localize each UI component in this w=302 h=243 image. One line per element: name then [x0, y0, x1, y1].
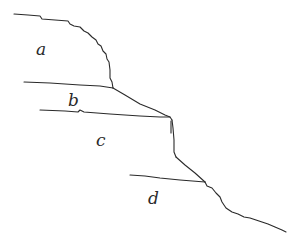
cliff-drop	[172, 120, 176, 157]
boundary-b-c	[40, 110, 170, 117]
label-a: a	[36, 39, 46, 59]
boundary-c-d	[130, 175, 205, 182]
slope-diagram: a b c d	[0, 0, 302, 243]
label-d: d	[148, 188, 159, 208]
label-c: c	[96, 130, 106, 150]
layer-c-slope	[176, 157, 205, 182]
boundary-a-b	[24, 82, 113, 88]
lower-slope	[205, 182, 286, 232]
label-b: b	[68, 90, 79, 110]
layer-a-top-edge	[14, 14, 113, 88]
